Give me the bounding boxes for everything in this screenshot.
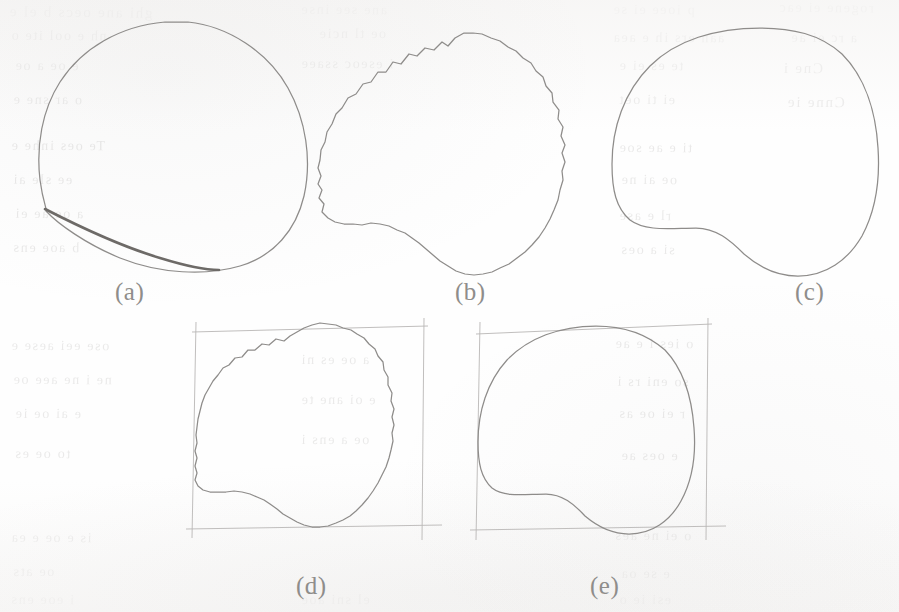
panel-label-b: (b) <box>455 278 486 306</box>
panel-d-outline <box>195 323 394 527</box>
panel-label-e: (e) <box>590 572 619 600</box>
panel-label-c: (c) <box>795 278 824 306</box>
panel-c-contour <box>612 28 878 276</box>
panel-d-bounding-box <box>186 318 442 540</box>
figure-svg <box>0 0 899 612</box>
panel-a-outline <box>39 22 308 272</box>
panel-a-dark-chord <box>45 209 219 270</box>
bounding-box-line <box>192 322 196 538</box>
panel-label-d: (d) <box>296 572 327 600</box>
panel-a-contour <box>39 22 308 272</box>
scanned-page: ghi ane oecs b el eane see insep ioee ei… <box>0 0 899 612</box>
panel-b-contour <box>318 33 565 275</box>
panel-b-outline <box>318 33 565 275</box>
panel-e-bounding-box <box>470 318 726 540</box>
panel-c-outline <box>612 28 878 276</box>
panel-d-contour <box>186 318 442 540</box>
panel-e-outline <box>478 326 695 534</box>
figure-contours <box>0 0 899 612</box>
panel-label-a: (a) <box>115 278 144 306</box>
bounding-box-line <box>192 326 428 332</box>
panel-e-contour <box>470 318 726 540</box>
bounding-box-line <box>706 318 708 540</box>
bounding-box-line <box>470 526 726 530</box>
bounding-box-line <box>422 318 424 540</box>
